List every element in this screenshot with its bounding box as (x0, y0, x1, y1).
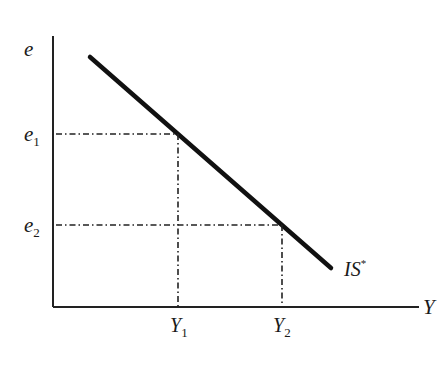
is-star-curve (90, 57, 331, 268)
e2-subscript: 2 (33, 225, 40, 240)
y2-label: Y2 (273, 314, 291, 340)
y-axis-label: e (24, 37, 33, 61)
is-star-label: IS* (343, 257, 366, 280)
y2-subscript: 2 (284, 325, 291, 340)
is-label-star: * (361, 257, 367, 269)
e2-label: e2 (24, 213, 40, 240)
y1-subscript: 1 (181, 325, 188, 340)
x-axis-label: Y (423, 295, 437, 319)
is-label-main: IS (343, 258, 361, 280)
e2-base: e (24, 213, 33, 237)
is-star-diagram: e Y e1 e2 Y1 Y2 IS* (0, 0, 447, 367)
e1-base: e (24, 122, 33, 146)
e1-subscript: 1 (33, 134, 40, 149)
e1-label: e1 (24, 122, 40, 149)
y1-label: Y1 (170, 314, 188, 340)
